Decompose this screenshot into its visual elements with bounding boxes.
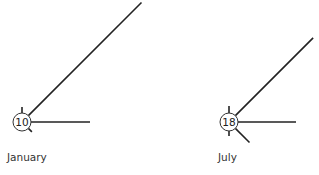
wind-spoke-se <box>235 128 249 142</box>
calm-value: 10 <box>15 116 28 128</box>
wind-spoke-ne <box>235 38 313 116</box>
wind-rose-canvas: 10 18 <box>0 0 319 175</box>
wind-rose-label-january: January <box>7 151 47 163</box>
wind-spoke-ne <box>28 3 141 116</box>
wind-rose-january: 10 <box>13 3 142 132</box>
calm-value: 18 <box>222 116 235 128</box>
wind-spoke-se <box>28 128 32 132</box>
wind-rose-july: 18 <box>220 38 313 143</box>
wind-rose-label-july: July <box>218 151 237 163</box>
wind-rose-figure: 10 18 January July <box>0 0 319 175</box>
